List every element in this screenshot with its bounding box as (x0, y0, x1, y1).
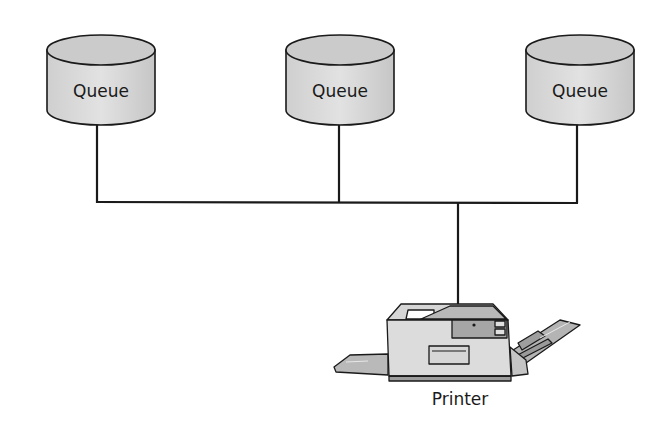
printer-output-tray (334, 354, 388, 375)
queue-cylinder-3: Queue (526, 35, 634, 125)
queue-label: Queue (312, 81, 368, 101)
printer-button[interactable] (495, 321, 505, 327)
queue-cylinder-1: Queue (47, 35, 155, 125)
bus-line (96, 202, 578, 203)
queue-cylinder-2: Queue (286, 35, 394, 125)
queue-printer-diagram: Queue Queue Queue (0, 0, 661, 431)
printer-button[interactable] (495, 329, 505, 335)
queue-label: Queue (552, 81, 608, 101)
printer-indicator-light (472, 323, 475, 326)
connector-lines (96, 124, 578, 304)
printer-icon (334, 304, 580, 381)
queue-label: Queue (73, 81, 129, 101)
printer-paper-slot (429, 346, 469, 364)
printer-label: Printer (432, 389, 489, 409)
